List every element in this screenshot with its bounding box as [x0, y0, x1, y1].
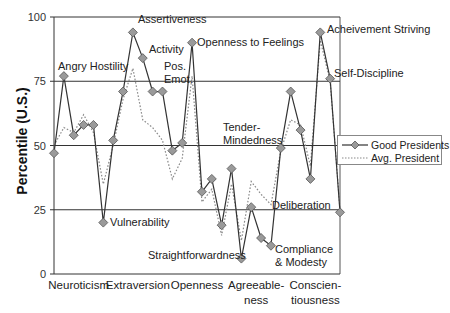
annotation-label: Tender-: [223, 121, 261, 133]
diamond-marker: [89, 120, 98, 129]
annotation-label: Activity: [149, 43, 184, 55]
diamond-marker: [158, 87, 167, 96]
annotation-label: Vulnerability: [110, 216, 170, 228]
x-category-label: Neuroticism: [48, 279, 109, 291]
diamond-marker: [109, 136, 118, 145]
diamond-marker: [286, 87, 295, 96]
diamond-marker: [99, 218, 108, 227]
annotation-label: Deliberation: [272, 199, 331, 211]
annotation-label: Straightforwardness: [148, 249, 246, 261]
annotation-label: Openness to Feelings: [197, 36, 305, 48]
annotation-label: Acheivement Striving: [327, 23, 430, 35]
diamond-marker: [247, 203, 256, 212]
gridlines: [50, 17, 340, 274]
annotation-label: Mindedness: [223, 134, 283, 146]
annotation-label: & Modesty: [275, 256, 327, 268]
annotation-label: Pos.: [164, 60, 186, 72]
diamond-marker: [138, 54, 147, 63]
dotted-line-icon: [342, 153, 368, 163]
y-tick-label: 0: [40, 268, 46, 280]
diamond-marker: [227, 164, 236, 173]
diamond-marker: [306, 174, 315, 183]
y-tick-label: 50: [34, 140, 46, 152]
diamond-marker: [119, 87, 128, 96]
diamond-marker: [50, 149, 59, 158]
x-category-label: Extraversion: [106, 279, 170, 291]
annotation-label: Emot.: [164, 73, 193, 85]
diamond-marker: [336, 208, 345, 217]
x-category-label: tiousness: [291, 294, 340, 306]
diamond-marker: [128, 28, 137, 37]
legend-label-good: Good Presidents: [371, 139, 449, 151]
annotation-label: Self-Discipline: [334, 67, 404, 79]
annotation-label: Assertiveness: [138, 13, 207, 25]
legend: Good Presidents Avg. President: [337, 135, 442, 165]
diamond-marker: [188, 38, 197, 47]
diamond-marker: [316, 28, 325, 37]
legend-item-good-presidents: Good Presidents: [342, 138, 449, 151]
annotation-label: Compliance: [275, 243, 333, 255]
diamond-marker: [296, 126, 305, 135]
x-category-label: ness: [244, 294, 269, 306]
diamond-marker: [59, 72, 68, 81]
x-category-label: Openness: [171, 279, 224, 291]
y-axis-label: Percentile (U.S.): [14, 81, 30, 201]
x-category-label: Conscien-: [289, 279, 341, 291]
diamond-marker: [148, 87, 157, 96]
y-tick-label: 100: [28, 11, 46, 23]
x-axis-categories: NeuroticismExtraversionOpennessAgreeable…: [48, 279, 341, 306]
y-tick-label: 75: [34, 75, 46, 87]
annotation-label: Angry Hostility: [58, 60, 129, 72]
y-axis-ticks: 0255075100: [28, 11, 46, 280]
legend-item-avg-president: Avg. President: [342, 151, 439, 164]
legend-label-avg: Avg. President: [371, 152, 439, 164]
solid-diamond-line-icon: [342, 140, 368, 150]
y-tick-label: 25: [34, 204, 46, 216]
x-category-label: Agreeable-: [228, 279, 284, 291]
